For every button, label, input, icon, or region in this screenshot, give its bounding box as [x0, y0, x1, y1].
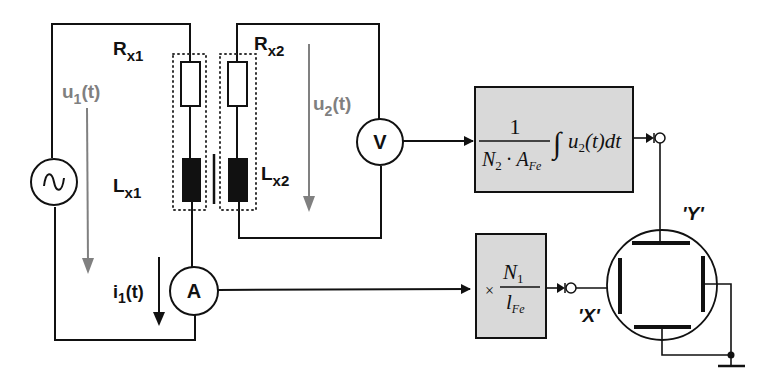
integral-sign: ∫: [551, 126, 563, 162]
ammeter-label: A: [187, 280, 201, 302]
u1-arrow: [87, 108, 88, 262]
inductor-lx2: [228, 158, 248, 202]
circuit-diagram: A Rx1 Lx1 u1(t) i1(t): [0, 0, 774, 388]
rx2-label: Rx2: [254, 33, 284, 59]
y-input-label: 'Y': [682, 203, 705, 224]
x-input-arrowhead: [557, 283, 565, 293]
y-input-arrowhead: [646, 133, 654, 143]
u2-label: u2(t): [313, 93, 351, 119]
u1-arrowhead: [82, 258, 94, 274]
lx2-label: Lx2: [261, 163, 289, 189]
ammeter-to-scaling-wire: [218, 289, 470, 290]
i1-label: i1(t): [113, 282, 144, 306]
ammeter: A: [170, 267, 218, 315]
primary-circuit: A Rx1 Lx1 u1(t) i1(t): [31, 24, 470, 340]
voltmeter-label: V: [373, 131, 387, 153]
voltmeter: V: [357, 119, 403, 165]
u2-arrowhead: [303, 196, 315, 212]
resistor-rx2: [228, 62, 247, 106]
y-terminal: [655, 133, 665, 143]
secondary-circuit: V Rx2 Lx2 u2(t): [220, 24, 473, 238]
i1-arrowhead: [153, 312, 165, 326]
lx1-label: Lx1: [113, 175, 141, 201]
integrator-block: 1 N2·AFe ∫ u2(t)dt: [475, 87, 633, 192]
oscilloscope-crt: [607, 230, 717, 340]
resistor-rx1: [181, 62, 200, 106]
scaling-block: × N1 lFe: [476, 234, 546, 338]
inductor-lx1: [182, 158, 201, 202]
ac-source: [31, 159, 77, 205]
scaling-times: ×: [485, 282, 494, 299]
x-terminal: [566, 283, 576, 293]
rx1-label: Rx1: [113, 38, 143, 64]
x-input-label: 'X': [578, 305, 601, 326]
integrand: u2(t)dt: [568, 129, 622, 155]
crt-tube: [607, 230, 717, 340]
primary-bottom-wire: [55, 207, 195, 340]
u1-label: u1(t): [62, 81, 100, 107]
integrator-numerator: 1: [510, 114, 521, 139]
